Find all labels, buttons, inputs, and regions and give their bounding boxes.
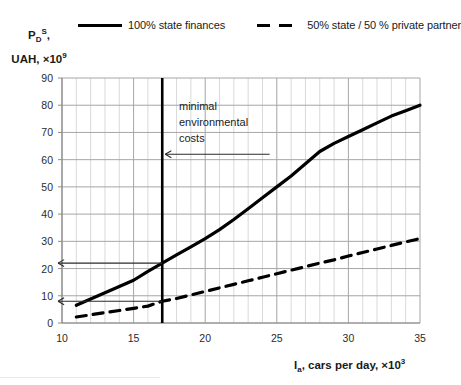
annotation-line-1: minimal bbox=[179, 100, 217, 112]
gridlines bbox=[62, 78, 420, 323]
y-tick-label: 60 bbox=[41, 154, 53, 166]
y-tick-label: 10 bbox=[41, 290, 53, 302]
y-tick-label: 50 bbox=[41, 181, 53, 193]
x-tick-label: 10 bbox=[56, 332, 68, 344]
x-tick-label: 30 bbox=[343, 332, 355, 344]
x-tick-label: 25 bbox=[271, 332, 283, 344]
x-tick-label: 20 bbox=[199, 332, 211, 344]
minimal-cost-arrow bbox=[165, 151, 269, 158]
annotation-line-2: environmental bbox=[179, 116, 248, 128]
y-tick-label: 40 bbox=[41, 208, 53, 220]
y-tick-label: 80 bbox=[41, 99, 53, 111]
annotation-line-3: costs bbox=[179, 132, 205, 144]
y-tick-labels: 0102030405060708090 bbox=[41, 72, 53, 329]
solid-intercept-arrow bbox=[58, 260, 162, 267]
y-tick-label: 0 bbox=[47, 317, 53, 329]
annotation-layer bbox=[58, 78, 270, 323]
x-tick-label: 15 bbox=[128, 332, 140, 344]
y-tick-label: 30 bbox=[41, 235, 53, 247]
dashed-intercept-arrow bbox=[58, 298, 162, 305]
bottom-divider bbox=[0, 377, 160, 378]
y-tick-label: 20 bbox=[41, 263, 53, 275]
y-tick-label: 70 bbox=[41, 126, 53, 138]
x-tick-labels: 101520253035 bbox=[56, 332, 426, 344]
y-tick-label: 90 bbox=[41, 72, 53, 84]
axis-frame bbox=[58, 78, 420, 323]
x-tick-label: 35 bbox=[414, 332, 426, 344]
